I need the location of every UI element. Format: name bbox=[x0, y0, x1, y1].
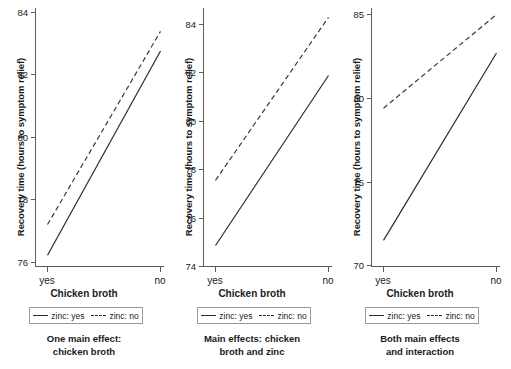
x-axis-label: Chicken broth bbox=[0, 288, 168, 299]
caption-line-1: Main effects: chicken bbox=[172, 332, 332, 345]
legend-label-zinc-yes: zinc: yes bbox=[51, 311, 84, 321]
series-line-zinc-no bbox=[48, 31, 161, 224]
legend-item-zinc-yes: zinc: yes bbox=[201, 311, 252, 321]
x-tick-label-yes: yes bbox=[207, 275, 223, 286]
panel-caption-1: One main effect: chicken broth bbox=[4, 332, 164, 358]
dashed-line-key-icon bbox=[427, 312, 442, 319]
panel-main-effects-interaction: Recovery time (hours to symptom relief) … bbox=[336, 0, 504, 369]
y-tick-label: 82 bbox=[185, 67, 196, 78]
legend-3: zinc: yes zinc: no bbox=[365, 307, 479, 324]
legend-item-zinc-yes: zinc: yes bbox=[369, 311, 420, 321]
caption-line-2: chicken broth bbox=[4, 345, 164, 358]
caption-line-2: and interaction bbox=[340, 345, 500, 358]
x-ticks-1 bbox=[48, 267, 161, 272]
series-line-zinc-yes bbox=[48, 51, 161, 255]
y-tick-label: 80 bbox=[185, 116, 196, 127]
legend-1: zinc: yes zinc: no bbox=[29, 307, 143, 324]
panel-caption-3: Both main effects and interaction bbox=[340, 332, 500, 358]
plot-area-1: 84 82 80 78 76 yes no bbox=[0, 0, 168, 286]
panel-main-effects: Recovery time (hours to symptom relief) … bbox=[168, 0, 336, 369]
plot-area-2: 84 82 80 78 76 74 yes no bbox=[168, 0, 336, 286]
caption-line-1: One main effect: bbox=[4, 332, 164, 345]
legend-item-zinc-no: zinc: no bbox=[91, 311, 138, 321]
legend-label-zinc-yes: zinc: yes bbox=[387, 311, 420, 321]
y-ticks-1 bbox=[31, 13, 36, 263]
x-axis-label: Chicken broth bbox=[168, 288, 336, 299]
series-line-zinc-yes bbox=[216, 76, 329, 246]
legend-item-zinc-no: zinc: no bbox=[427, 311, 474, 321]
legend-item-zinc-no: zinc: no bbox=[259, 311, 306, 321]
x-tick-label-no: no bbox=[154, 275, 166, 286]
dashed-line-key-icon bbox=[259, 312, 274, 319]
y-tick-label: 80 bbox=[17, 132, 28, 143]
y-tick-label: 74 bbox=[185, 261, 196, 272]
x-tick-label-yes: yes bbox=[39, 275, 55, 286]
x-axis-label: Chicken broth bbox=[336, 288, 504, 299]
solid-line-key-icon bbox=[33, 312, 48, 319]
series-line-zinc-no bbox=[216, 17, 329, 180]
caption-line-2: broth and zinc bbox=[172, 345, 332, 358]
panel-one-main-effect: Recovery time (hours to symptom relief) … bbox=[0, 0, 168, 369]
y-tick-label: 78 bbox=[17, 194, 28, 205]
y-tick-label: 76 bbox=[17, 257, 28, 268]
y-tick-label: 84 bbox=[185, 19, 196, 30]
x-tick-label-no: no bbox=[490, 275, 502, 286]
x-ticks-2 bbox=[216, 267, 329, 272]
panel-caption-2: Main effects: chicken broth and zinc bbox=[172, 332, 332, 358]
series-line-zinc-yes bbox=[384, 53, 497, 240]
solid-line-key-icon bbox=[201, 312, 216, 319]
y-tick-label: 85 bbox=[353, 9, 364, 20]
series-line-zinc-no bbox=[384, 15, 497, 109]
y-ticks-2 bbox=[199, 25, 204, 267]
x-tick-label-no: no bbox=[322, 275, 334, 286]
legend-label-zinc-no: zinc: no bbox=[277, 311, 306, 321]
legend-2: zinc: yes zinc: no bbox=[197, 307, 311, 324]
plot-area-3: 85 80 75 70 yes no bbox=[336, 0, 504, 286]
x-ticks-3 bbox=[384, 267, 497, 272]
dashed-line-key-icon bbox=[91, 312, 106, 319]
x-tick-label-yes: yes bbox=[375, 275, 391, 286]
interaction-plot-figure: Recovery time (hours to symptom relief) … bbox=[0, 0, 511, 369]
y-ticks-3 bbox=[367, 15, 372, 266]
legend-label-zinc-no: zinc: no bbox=[109, 311, 138, 321]
solid-line-key-icon bbox=[369, 312, 384, 319]
y-tick-label: 76 bbox=[185, 213, 196, 224]
legend-label-zinc-yes: zinc: yes bbox=[219, 311, 252, 321]
y-tick-label: 80 bbox=[353, 93, 364, 104]
y-tick-label: 82 bbox=[17, 69, 28, 80]
legend-item-zinc-yes: zinc: yes bbox=[33, 311, 84, 321]
y-tick-label: 84 bbox=[17, 7, 28, 18]
caption-line-1: Both main effects bbox=[340, 332, 500, 345]
y-tick-label: 78 bbox=[185, 164, 196, 175]
y-tick-label: 75 bbox=[353, 177, 364, 188]
y-tick-label: 70 bbox=[353, 260, 364, 271]
legend-label-zinc-no: zinc: no bbox=[445, 311, 474, 321]
